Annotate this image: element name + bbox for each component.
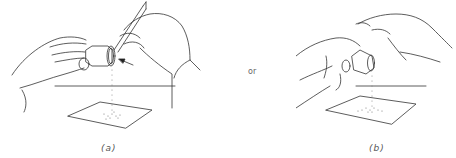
vial-icon [86, 46, 115, 66]
right-hand-icon [120, 14, 200, 109]
paper-sheet [68, 102, 152, 128]
label-a: (a) [101, 143, 117, 153]
powder-stream [372, 76, 373, 107]
arrow-icon [119, 59, 133, 65]
or-connector: or [248, 67, 256, 76]
vial-icon [352, 50, 375, 74]
panel-a: (a) [0, 0, 230, 158]
panel-b: (b) [296, 0, 456, 158]
powder-pile [103, 111, 120, 119]
powder-pile [357, 107, 382, 112]
illustration-b [296, 0, 456, 158]
paper-sheet [326, 96, 416, 124]
illustration-a [0, 0, 230, 158]
left-hand-icon [296, 38, 360, 108]
label-b: (b) [369, 143, 385, 153]
powder-stream [112, 70, 113, 111]
left-hand-icon [12, 37, 89, 112]
